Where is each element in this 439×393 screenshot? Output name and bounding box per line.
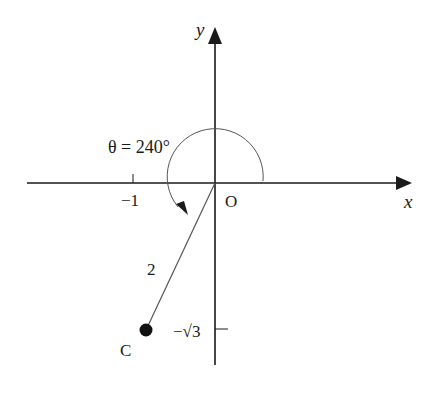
- y-tick-label: −√3: [173, 322, 200, 341]
- x-axis-arrow-icon: [396, 176, 412, 190]
- x-tick-label: −1: [121, 191, 139, 210]
- polar-diagram: y x O −1 −√3 θ = 240° 2 C: [0, 0, 439, 393]
- angle-label: θ = 240°: [108, 137, 170, 157]
- point-c: [140, 324, 153, 337]
- angle-arrow-icon: [176, 201, 188, 215]
- segment-length-label: 2: [147, 260, 156, 279]
- y-axis-arrow-icon: [208, 27, 222, 44]
- point-label: C: [120, 341, 131, 360]
- x-axis-label: x: [403, 191, 413, 212]
- y-axis-label: y: [194, 19, 205, 40]
- origin-label: O: [225, 192, 237, 211]
